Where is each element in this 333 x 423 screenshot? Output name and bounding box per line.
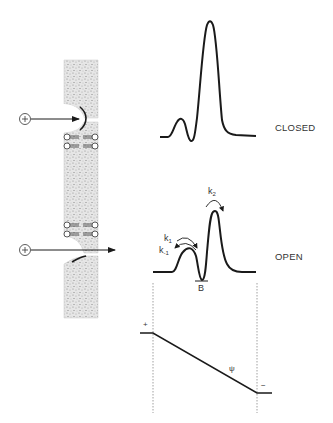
- potential-profile: [140, 333, 272, 393]
- open-label: OPEN: [275, 251, 303, 262]
- potential-plus: +: [143, 320, 148, 329]
- k1-arrow: [177, 238, 197, 248]
- k1-label: k1: [164, 233, 172, 244]
- ion-channel-diagram: [0, 0, 333, 423]
- energy-profile-closed: [160, 21, 256, 141]
- membrane: [64, 60, 98, 318]
- potential-minus: −: [261, 381, 266, 390]
- closed-label: CLOSED: [275, 122, 315, 133]
- k2-arrow: [206, 200, 223, 211]
- binding-site-label: B: [198, 283, 204, 293]
- k2-label: k2: [208, 186, 216, 197]
- cation-open: [20, 245, 116, 256]
- potential-psi: ψ: [229, 364, 235, 373]
- k-1-label: k-1: [159, 245, 169, 256]
